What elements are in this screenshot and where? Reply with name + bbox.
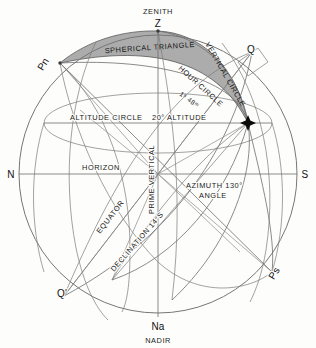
label-nadir-symbol: Na (151, 321, 164, 332)
declination-circle-group (112, 123, 248, 280)
label-north-point: N (7, 169, 14, 180)
label-declination: DECLINATION 14°S (109, 210, 166, 273)
label-zenith-symbol: Z (155, 18, 161, 29)
ray-to-star (158, 123, 248, 174)
limb-arc-right-2 (272, 123, 283, 272)
declination-chord (112, 123, 248, 280)
secondary-meridian-arc-2 (69, 42, 108, 320)
label-zenith: ZENITH (143, 7, 173, 16)
zenith-dot (156, 29, 159, 32)
label-south-pole: Ps (266, 265, 282, 281)
north-pole-dot (58, 61, 61, 64)
label-south-point: S (302, 169, 309, 180)
celestial-sphere-diagram: ZENITH Z SPHERICAL TRIANGLE VERTICAL CIR… (0, 0, 316, 348)
label-altitude-circle: ALTITUDE CIRCLE (70, 113, 143, 122)
star-marker-group (240, 115, 256, 131)
star-icon (240, 115, 256, 131)
limb-arc-left (34, 123, 45, 272)
label-prime-vertical: PRIME VERTICAL (147, 145, 156, 214)
label-altitude-value: 20° ALTITUDE (152, 113, 207, 122)
label-north-pole: Pn (35, 56, 51, 73)
celestial-sphere-svg: ZENITH Z SPHERICAL TRIANGLE VERTICAL CIR… (0, 0, 316, 348)
label-equator: EQUATOR (94, 198, 126, 235)
label-equator-q: Q (247, 44, 255, 55)
secondary-meridian-arc (60, 63, 130, 312)
label-azimuth-angle-value: AZIMUTH 130° (186, 181, 243, 190)
label-nadir: NADIR (145, 336, 171, 345)
label-azimuth-angle-word: ANGLE (199, 191, 227, 200)
label-equator-qprime: Q' (57, 288, 67, 299)
label-horizon: HORIZON (82, 163, 120, 172)
